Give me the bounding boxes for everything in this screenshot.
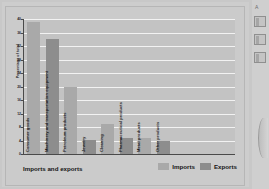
x-axis-line: [23, 154, 235, 155]
x-axis-category-label: Other products: [155, 122, 160, 152]
thumbnail-item[interactable]: [254, 16, 266, 27]
legend-swatch-imports: [158, 163, 169, 170]
legend-item-exports: Exports: [200, 163, 237, 170]
thumbnail-bar-icon: [256, 36, 259, 44]
thumbnail-item[interactable]: [254, 52, 266, 63]
x-axis-category-label: Pharmaceutical products: [118, 102, 123, 152]
legend-label-imports: Imports: [172, 163, 195, 170]
legend-swatch-exports: [200, 163, 211, 170]
thumbnail-item[interactable]: [254, 34, 266, 45]
chart-legend: Imports Exports: [158, 163, 237, 170]
x-axis-category-label: Cleaning: [99, 134, 104, 152]
chart-figure: Percentage of total Consumer goodsMachin…: [5, 6, 245, 186]
x-axis-category-label: Machinery and transportation equipment: [44, 71, 49, 152]
x-axis-title: Imports and exports: [23, 165, 82, 172]
legend-label-exports: Exports: [214, 163, 237, 170]
screenshot-root: Percentage of total Consumer goodsMachin…: [0, 0, 269, 189]
legend-item-imports: Imports: [158, 163, 195, 170]
side-rail: A: [252, 0, 269, 189]
document-page: Percentage of total Consumer goodsMachin…: [2, 2, 249, 187]
rail-marker-icon: A: [255, 4, 258, 10]
x-axis-category-label: Petroleum products: [62, 112, 67, 152]
plot-area: Consumer goodsMachinery and transportati…: [23, 19, 235, 154]
x-axis-category-label: Metal products: [136, 122, 141, 152]
y-axis-line: [23, 19, 24, 155]
x-axis-category-label: Consumer goods: [25, 118, 30, 152]
x-axis-category-label: Jewelry: [81, 137, 86, 152]
page-curl-icon: [258, 118, 268, 158]
bar-group: Consumer goodsMachinery and transportati…: [23, 19, 235, 154]
thumbnail-bar-icon: [256, 18, 259, 26]
thumbnail-bar-icon: [256, 54, 259, 62]
